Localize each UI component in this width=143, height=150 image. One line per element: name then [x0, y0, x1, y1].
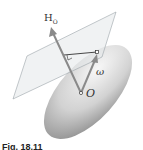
figure-caption: Fig. 18.11: [2, 142, 43, 150]
origin-label: O: [86, 88, 95, 99]
angular-momentum-symbol: H: [44, 12, 53, 23]
angular-velocity-label: ω: [96, 67, 104, 77]
origin-point: [79, 91, 82, 94]
angular-momentum-subscript: O: [53, 18, 58, 25]
angular-momentum-arrowhead: [49, 27, 57, 37]
rigid-body-diagram: [0, 0, 143, 150]
angular-momentum-label: HO: [44, 13, 58, 25]
omega-tip-point: [96, 51, 99, 54]
